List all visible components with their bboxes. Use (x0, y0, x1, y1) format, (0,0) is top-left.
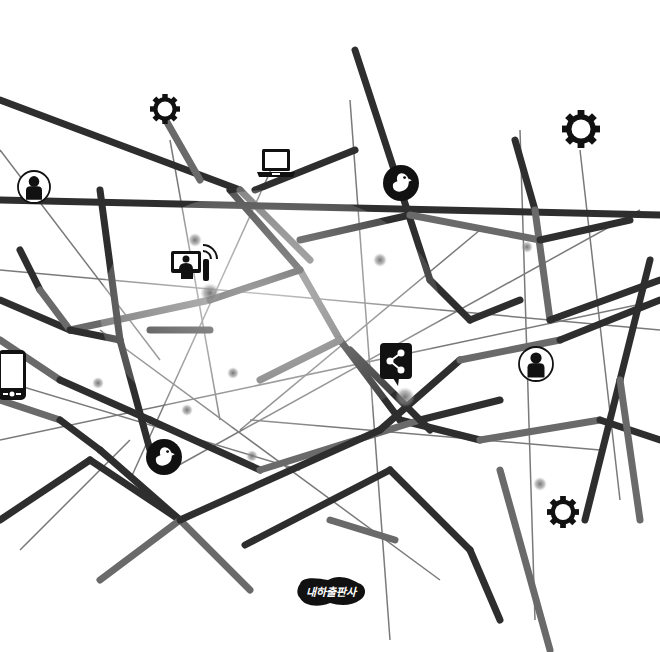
strand (60, 420, 100, 450)
strand (20, 250, 40, 290)
network-illustration: 내하출판사 (0, 0, 660, 652)
strand (470, 550, 500, 620)
strand (420, 400, 500, 420)
strand (540, 220, 630, 240)
strand (480, 420, 600, 440)
glow-node (395, 387, 415, 407)
gear-icon (562, 110, 600, 148)
smartphone-icon (0, 350, 26, 400)
strand (620, 380, 640, 520)
glow-node (533, 477, 547, 491)
strand (100, 520, 180, 580)
strand (390, 470, 470, 550)
strand (0, 400, 60, 420)
user-circle-icon (519, 347, 553, 381)
bird-icon (383, 165, 419, 201)
glow-node (373, 253, 387, 267)
logo-text: 내하출판사 (306, 586, 358, 599)
laptop-icon (257, 149, 295, 177)
glow-node (200, 283, 220, 303)
gear-icon (150, 94, 180, 124)
glow-node (227, 367, 239, 379)
glow-node (521, 241, 533, 253)
strand (500, 470, 550, 650)
strand (180, 520, 250, 590)
glow-node (246, 450, 258, 462)
glow-node (181, 404, 193, 416)
gear-icon (547, 496, 579, 528)
strand (410, 215, 540, 240)
user-circle-icon (18, 171, 50, 203)
strand (560, 300, 660, 340)
glow-node (92, 377, 104, 389)
bird-icon (146, 439, 182, 475)
strand (0, 460, 90, 520)
publisher-logo: 내하출판사 (297, 577, 365, 606)
strand (515, 140, 535, 210)
strand (620, 260, 650, 380)
strand (535, 210, 550, 320)
center-highlight (100, 190, 440, 430)
glow-node (188, 233, 202, 247)
